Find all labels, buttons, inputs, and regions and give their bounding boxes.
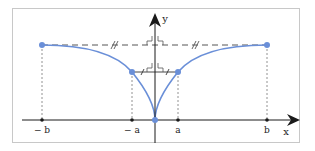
point-b xyxy=(264,42,270,48)
point-a xyxy=(175,69,181,75)
point-origin xyxy=(152,117,158,123)
x-axis-label: x xyxy=(283,126,289,137)
diagram-canvas: − b − a a b x y xyxy=(0,0,315,151)
y-axis-label: y xyxy=(161,13,168,24)
label-a: a xyxy=(175,125,181,135)
tick-neg-a xyxy=(130,118,134,122)
tick-b xyxy=(265,118,269,122)
label-neg-a: − a xyxy=(124,125,140,135)
label-neg-b: − b xyxy=(34,125,50,135)
label-b: b xyxy=(264,125,270,135)
tick-a xyxy=(176,118,180,122)
point-neg-b xyxy=(39,42,45,48)
point-neg-a xyxy=(129,69,135,75)
tick-neg-b xyxy=(40,118,44,122)
